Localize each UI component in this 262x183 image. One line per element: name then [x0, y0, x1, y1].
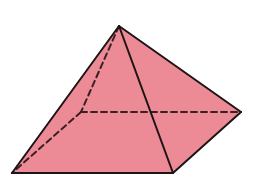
square-pyramid-diagram: [0, 0, 262, 183]
